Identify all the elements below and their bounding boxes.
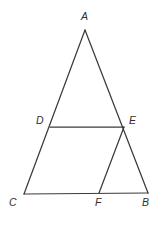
side-ab bbox=[85, 30, 148, 193]
vertex-label-f: F bbox=[95, 197, 101, 208]
vertex-label-d: D bbox=[36, 115, 44, 126]
vertex-label-e: E bbox=[129, 115, 136, 126]
segment-group bbox=[24, 30, 148, 194]
segment-fe bbox=[99, 127, 124, 193]
vertex-label-b: B bbox=[142, 197, 149, 208]
geometry-figure: A B C D E F bbox=[0, 0, 161, 226]
side-cb bbox=[24, 193, 148, 194]
side-ac bbox=[24, 30, 85, 194]
vertex-label-a: A bbox=[81, 11, 88, 22]
figure-drawing-area bbox=[0, 0, 161, 226]
vertex-label-c: C bbox=[9, 197, 17, 208]
